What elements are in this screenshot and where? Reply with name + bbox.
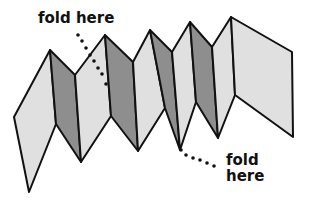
leader-dot-bottom: [184, 153, 188, 157]
fold-label-line1: fold: [226, 152, 264, 168]
leader-dot-top: [84, 46, 88, 50]
leader-dot-bottom: [212, 164, 216, 168]
leader-dot-bottom: [198, 158, 202, 162]
leader-dot-top: [80, 39, 84, 43]
panel-1-light: [14, 50, 56, 192]
leader-dot-top: [88, 53, 92, 57]
fold-here-label-top: fold here: [38, 10, 114, 26]
fold-label-line2: here: [226, 168, 264, 184]
panel-4-dark: [105, 35, 138, 151]
leader-dot-top: [76, 33, 80, 37]
leader-dot-top: [96, 66, 100, 70]
leader-dot-bottom: [179, 148, 183, 152]
fold-here-label-bottom: fold here: [226, 152, 264, 184]
panel-10-light: [231, 17, 293, 137]
leader-dot-top: [104, 82, 108, 86]
leader-dot-bottom: [191, 156, 195, 160]
leader-dot-top: [100, 72, 104, 76]
leader-dot-bottom: [205, 161, 209, 165]
leader-dot-top: [92, 59, 96, 63]
